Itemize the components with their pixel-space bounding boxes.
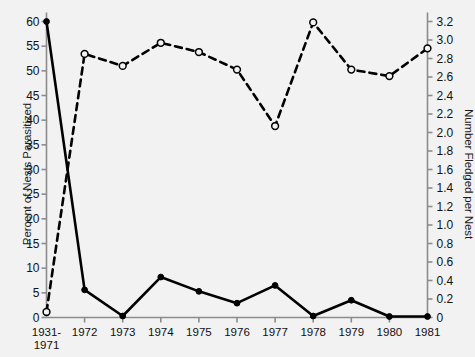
data-point bbox=[81, 50, 88, 57]
x-axis-tick-label-line1: 1981 bbox=[396, 326, 460, 339]
data-point bbox=[348, 66, 355, 73]
y-axis-left-tick-label: 25 bbox=[2, 188, 40, 200]
data-point bbox=[387, 314, 393, 320]
data-point bbox=[272, 123, 279, 130]
y-axis-left-tick-label: 0 bbox=[2, 312, 40, 324]
y-axis-right-tick-label: 3.2 bbox=[437, 16, 454, 28]
data-point bbox=[386, 73, 393, 80]
y-axis-left-tick-label: 60 bbox=[2, 16, 40, 28]
y-axis-right-tick-label: 1.4 bbox=[437, 182, 454, 194]
data-point bbox=[424, 45, 431, 52]
data-point bbox=[157, 39, 164, 46]
y-axis-right-tick-label: 2.8 bbox=[437, 53, 454, 65]
data-point bbox=[44, 19, 50, 25]
data-point bbox=[196, 288, 202, 294]
y-axis-right-tick-label: 2.2 bbox=[437, 108, 454, 120]
y-axis-right-tick-label: 1.0 bbox=[437, 219, 454, 231]
x-axis-tick-label-line2: 1971 bbox=[15, 339, 79, 352]
y-axis-right-tick-label: 2.6 bbox=[437, 71, 454, 83]
data-point bbox=[82, 287, 88, 293]
y-axis-left-tick-label: 30 bbox=[2, 164, 40, 176]
y-axis-left-tick-label: 40 bbox=[2, 114, 40, 126]
data-point bbox=[310, 313, 316, 319]
data-point bbox=[272, 283, 278, 289]
y-axis-right-tick-label: 1.6 bbox=[437, 164, 454, 176]
y-axis-right-tick-label: 1.8 bbox=[437, 145, 454, 157]
y-axis-left-tick-label: 55 bbox=[2, 40, 40, 52]
data-point bbox=[310, 19, 317, 26]
x-axis-tick-label: 1981 bbox=[396, 326, 460, 339]
y-axis-left-tick-label: 20 bbox=[2, 213, 40, 225]
data-point bbox=[120, 313, 126, 319]
y-axis-right-tick-label: 0.6 bbox=[437, 256, 454, 268]
data-point bbox=[425, 314, 431, 320]
data-point bbox=[348, 297, 354, 303]
y-axis-right-tick-label: 2.4 bbox=[437, 90, 454, 102]
y-axis-right-tick-label: 0.2 bbox=[437, 293, 454, 305]
y-axis-left-tick-label: 15 bbox=[2, 238, 40, 250]
y-axis-right-tick-label: 0 bbox=[437, 312, 444, 324]
y-axis-right-tick-label: 3.0 bbox=[437, 34, 454, 46]
y-axis-right-tick-label: 0.8 bbox=[437, 238, 454, 250]
y-axis-left-tick-label: 45 bbox=[2, 90, 40, 102]
data-point bbox=[43, 309, 50, 316]
y-axis-left-tick-label: 35 bbox=[2, 139, 40, 151]
data-point bbox=[234, 300, 240, 306]
data-point bbox=[158, 274, 164, 280]
data-point bbox=[234, 66, 241, 73]
y-axis-left-tick-label: 10 bbox=[2, 262, 40, 274]
y-axis-right-tick-label: 0.4 bbox=[437, 275, 454, 287]
data-point bbox=[196, 49, 203, 56]
y-axis-right-tick-label: 2.0 bbox=[437, 127, 454, 139]
y-axis-right-tick-label: 1.2 bbox=[437, 201, 454, 213]
y-axis-left-tick-label: 50 bbox=[2, 65, 40, 77]
data-point bbox=[119, 63, 126, 70]
y-axis-left-tick-label: 5 bbox=[2, 287, 40, 299]
